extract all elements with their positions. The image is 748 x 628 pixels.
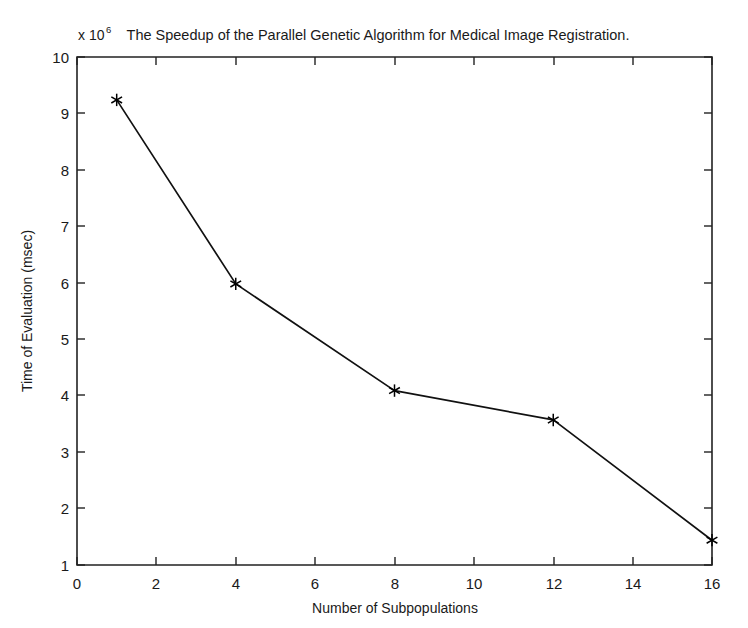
y-axis-multiplier-exponent: 6 — [106, 24, 111, 35]
x-tick-label: 14 — [625, 575, 642, 592]
y-tick-label: 5 — [61, 331, 69, 348]
y-tick-label: 6 — [61, 275, 69, 292]
y-tick-label: 1 — [61, 557, 69, 574]
x-tick-label: 2 — [152, 575, 160, 592]
x-tick-label: 12 — [546, 575, 563, 592]
plot-box-border — [77, 57, 712, 565]
x-tick-label: 10 — [466, 575, 483, 592]
chart-title: The Speedup of the Parallel Genetic Algo… — [127, 27, 630, 43]
x-tick-label: 6 — [311, 575, 319, 592]
x-tick-label: 0 — [73, 575, 81, 592]
y-axis-tick-labels: 1 2 3 4 5 6 7 8 9 10 — [52, 49, 69, 574]
x-axis-ticks — [77, 57, 712, 565]
y-axis-multiplier: x 10 6 — [78, 24, 111, 43]
y-tick-label: 8 — [61, 162, 69, 179]
x-tick-label: 8 — [391, 575, 399, 592]
x-axis-title: Number of Subpopulations — [312, 600, 478, 616]
y-tick-label: 7 — [61, 218, 69, 235]
y-axis-multiplier-base: x 10 — [78, 27, 105, 43]
y-tick-label: 4 — [61, 387, 69, 404]
data-series-line[interactable] — [117, 100, 712, 540]
y-axis-title: Time of Evaluation (msec) — [19, 230, 35, 392]
y-tick-label: 3 — [61, 444, 69, 461]
chart-plot[interactable]: The Speedup of the Parallel Genetic Algo… — [0, 0, 748, 628]
data-point-marker[interactable] — [707, 534, 718, 546]
figure-canvas: The Speedup of the Parallel Genetic Algo… — [0, 0, 748, 628]
y-axis-ticks — [77, 57, 712, 565]
x-tick-label: 4 — [232, 575, 240, 592]
y-tick-label: 2 — [61, 500, 69, 517]
x-tick-label: 16 — [704, 575, 721, 592]
y-tick-label: 9 — [61, 105, 69, 122]
y-tick-label: 10 — [52, 49, 69, 66]
x-axis-tick-labels: 0 2 4 6 8 10 12 14 16 — [73, 575, 721, 592]
data-point-markers[interactable] — [111, 94, 717, 547]
